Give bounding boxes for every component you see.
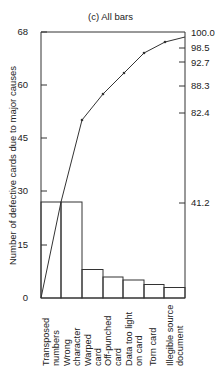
bars bbox=[41, 202, 185, 298]
cumulative-line bbox=[41, 37, 185, 298]
right-tick-82-4: 82.4 bbox=[191, 107, 210, 118]
cumulative-points bbox=[81, 41, 167, 122]
left-tick-0: 0 bbox=[6, 292, 28, 303]
bar-data-too-light bbox=[123, 280, 144, 298]
x-label-data-too-light: Data too lighton card bbox=[124, 312, 144, 366]
x-label-torn-card: Torn card bbox=[148, 328, 158, 366]
bar-wrong-character bbox=[61, 202, 82, 298]
right-tick-41-2: 41.2 bbox=[191, 197, 210, 208]
bar-torn-card bbox=[144, 285, 164, 299]
left-tick-30: 30 bbox=[6, 185, 28, 196]
x-label-warped-card: Warpedcard bbox=[83, 334, 103, 366]
x-label-off-punched-card: Off-punchedcard bbox=[103, 316, 123, 366]
x-label-wrong-character: Wrongcharacter bbox=[62, 328, 82, 366]
left-tick-60: 60 bbox=[6, 79, 28, 90]
bar-off-punched-card bbox=[103, 277, 123, 298]
right-tick-88-3: 88.3 bbox=[191, 80, 210, 91]
right-ticks bbox=[179, 48, 185, 203]
x-label-transposed-numbers: Transposednumbers bbox=[41, 318, 61, 366]
bar-illegible-source bbox=[164, 288, 185, 299]
bar-warped-card bbox=[82, 270, 103, 299]
left-tick-15: 15 bbox=[6, 239, 28, 250]
right-tick-100: 100.0 bbox=[191, 27, 215, 38]
right-tick-92-7: 92.7 bbox=[191, 57, 210, 68]
left-tick-68: 68 bbox=[6, 26, 28, 37]
x-label-illegible-source: Illegible sourcedocument bbox=[165, 305, 185, 366]
left-tick-45: 45 bbox=[6, 132, 28, 143]
right-tick-98-5: 98.5 bbox=[191, 42, 210, 53]
left-ticks bbox=[41, 32, 47, 245]
